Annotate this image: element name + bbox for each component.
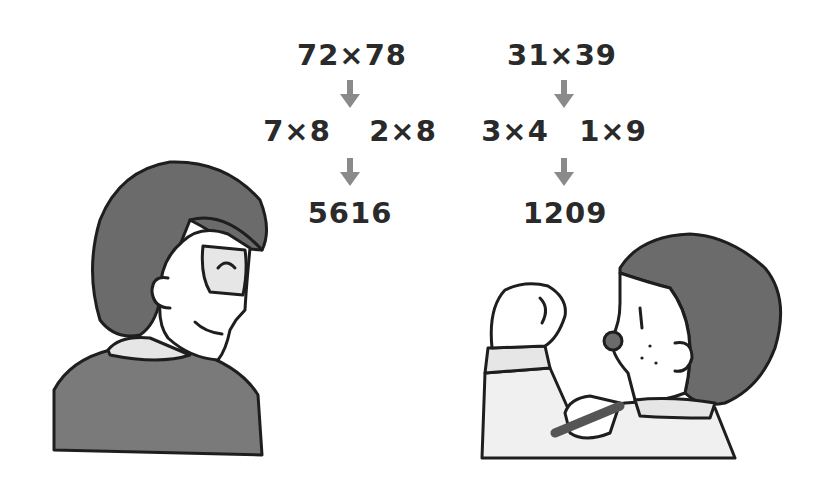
right-split-expression-2: 1×9 <box>568 114 658 148</box>
right-split-expression-1: 3×4 <box>470 114 560 148</box>
right-result: 1209 <box>510 196 620 230</box>
right-original-expression: 31×39 <box>497 38 627 72</box>
left-arrow-down-icon-1 <box>340 80 360 110</box>
left-result: 5616 <box>295 196 405 230</box>
right-arrow-down-icon-2 <box>554 158 574 188</box>
left-original-expression: 72×78 <box>287 38 417 72</box>
man-with-glasses-illustration <box>40 150 280 460</box>
left-split-expression-2: 2×8 <box>358 114 448 148</box>
boy-with-fist-illustration <box>470 228 800 463</box>
left-arrow-down-icon-2 <box>340 158 360 188</box>
right-arrow-down-icon-1 <box>554 80 574 110</box>
left-split-expression-1: 7×8 <box>252 114 342 148</box>
